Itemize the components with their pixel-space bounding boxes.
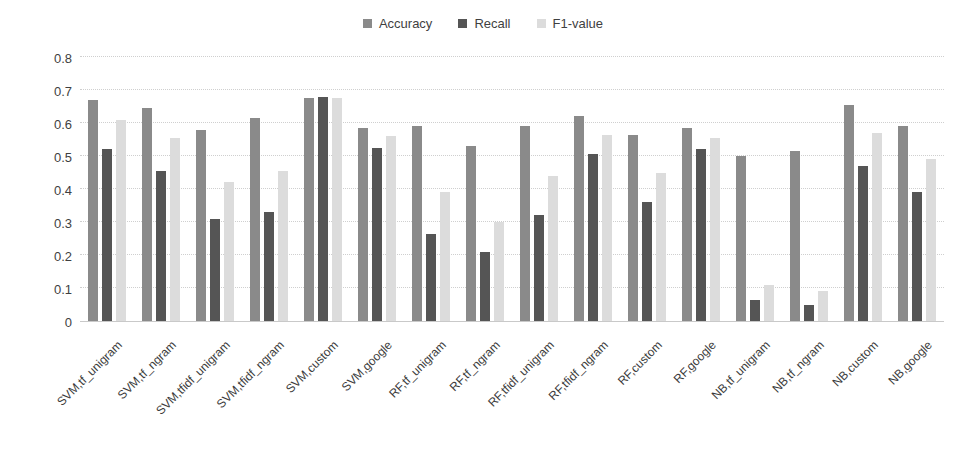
bar-f1-value	[764, 285, 774, 321]
bar-group-svm-tfidf-ngram	[242, 58, 296, 321]
bar-group-svm-tf-unigram	[80, 58, 134, 321]
bar-group-nb-custom	[836, 58, 890, 321]
bar-f1-value	[602, 135, 612, 321]
bar-recall	[534, 215, 544, 321]
bar-accuracy	[682, 128, 692, 321]
bar-accuracy	[898, 126, 908, 321]
bar-recall	[264, 212, 274, 321]
legend-label: Recall	[474, 16, 510, 31]
bar-f1-value	[818, 291, 828, 321]
bar-accuracy	[412, 126, 422, 321]
legend-item-accuracy: Accuracy	[363, 16, 432, 31]
bar-f1-value	[872, 133, 882, 321]
bar-recall	[480, 252, 490, 321]
bar-recall	[696, 149, 706, 321]
gridline	[80, 56, 944, 57]
bar-recall	[858, 166, 868, 321]
plot-area	[80, 58, 944, 322]
legend-swatch-icon	[458, 19, 467, 28]
bar-f1-value	[656, 173, 666, 322]
legend-label: F1-value	[553, 16, 604, 31]
bar-f1-value	[926, 159, 936, 321]
bar-recall	[318, 97, 328, 321]
bar-f1-value	[386, 136, 396, 321]
bar-accuracy	[88, 100, 98, 321]
bar-f1-value	[170, 138, 180, 321]
bar-recall	[588, 154, 598, 321]
bar-accuracy	[142, 108, 152, 321]
y-tick-label: 0.5	[0, 150, 72, 165]
bar-f1-value	[494, 222, 504, 321]
bar-group-svm-tfidf-unigram	[188, 58, 242, 321]
bar-group-rf-tfidf-unigram	[512, 58, 566, 321]
bar-accuracy	[358, 128, 368, 321]
legend-item-f1-value: F1-value	[537, 16, 604, 31]
bar-group-nb-google	[890, 58, 944, 321]
bar-group-rf-google	[674, 58, 728, 321]
bar-chart: AccuracyRecallF1-value 00.10.20.30.40.50…	[0, 0, 966, 461]
bar-group-nb-tf-ngram	[782, 58, 836, 321]
y-tick-label: 0.7	[0, 84, 72, 99]
bar-group-rf-tf-ngram	[458, 58, 512, 321]
bar-accuracy	[574, 116, 584, 321]
bar-groups	[80, 58, 944, 321]
y-tick-label: 0.4	[0, 183, 72, 198]
bar-accuracy	[790, 151, 800, 321]
legend-label: Accuracy	[379, 16, 432, 31]
legend-item-recall: Recall	[458, 16, 510, 31]
bar-f1-value	[332, 98, 342, 321]
bar-accuracy	[196, 130, 206, 321]
bar-accuracy	[628, 135, 638, 321]
bar-group-svm-custom	[296, 58, 350, 321]
y-tick-label: 0	[0, 315, 72, 330]
bar-f1-value	[548, 176, 558, 321]
legend-swatch-icon	[537, 19, 546, 28]
y-tick-label: 0.3	[0, 216, 72, 231]
bar-accuracy	[844, 105, 854, 321]
bar-accuracy	[520, 126, 530, 321]
bar-f1-value	[440, 192, 450, 321]
bar-f1-value	[116, 120, 126, 321]
bar-recall	[912, 192, 922, 321]
bar-accuracy	[304, 98, 314, 321]
bar-f1-value	[224, 182, 234, 321]
bar-recall	[750, 300, 760, 321]
bar-recall	[210, 219, 220, 321]
y-axis: 00.10.20.30.40.50.60.70.8	[0, 58, 72, 322]
legend-swatch-icon	[363, 19, 372, 28]
bar-recall	[804, 305, 814, 322]
bar-recall	[156, 171, 166, 321]
bar-f1-value	[710, 138, 720, 321]
bar-f1-value	[278, 171, 288, 321]
bar-group-svm-google	[350, 58, 404, 321]
bar-recall	[642, 202, 652, 321]
legend: AccuracyRecallF1-value	[0, 16, 966, 31]
y-tick-label: 0.6	[0, 117, 72, 132]
bar-recall	[372, 148, 382, 321]
bar-accuracy	[466, 146, 476, 321]
y-tick-label: 0.1	[0, 282, 72, 297]
bar-group-rf-tfidf-ngram	[566, 58, 620, 321]
bar-recall	[426, 234, 436, 321]
bar-group-rf-tf-unigram	[404, 58, 458, 321]
bar-group-nb-tf-unigram	[728, 58, 782, 321]
bar-group-rf-custom	[620, 58, 674, 321]
y-tick-label: 0.2	[0, 249, 72, 264]
bar-recall	[102, 149, 112, 321]
x-axis: SVM,tf_unigramSVM,tf_ngramSVM,tfidf_unig…	[80, 322, 944, 461]
bar-accuracy	[250, 118, 260, 321]
bar-accuracy	[736, 156, 746, 321]
bar-group-svm-tf-ngram	[134, 58, 188, 321]
y-tick-label: 0.8	[0, 51, 72, 66]
